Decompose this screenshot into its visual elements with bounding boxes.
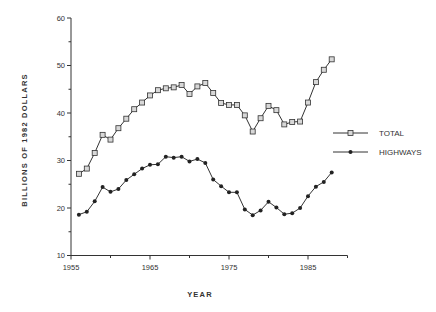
data-point-highways <box>259 208 263 212</box>
square-marker-icon <box>348 131 353 136</box>
x-tick-label: 1985 <box>300 263 317 272</box>
data-point-highways <box>322 180 326 184</box>
x-tick-label: 1955 <box>63 263 80 272</box>
x-axis-title: YEAR <box>187 290 213 299</box>
series-line-total <box>79 59 332 174</box>
data-point-total <box>116 126 121 131</box>
data-point-highways <box>306 194 310 198</box>
dot-marker-icon <box>349 150 353 154</box>
y-tick-label: 50 <box>57 61 65 70</box>
data-point-total <box>163 86 168 91</box>
data-point-highways <box>101 185 105 189</box>
legend-item-total: TOTAL <box>333 129 405 138</box>
legend-label-total: TOTAL <box>379 129 405 138</box>
data-point-total <box>76 171 81 176</box>
data-point-highways <box>85 210 89 214</box>
data-point-total <box>258 116 263 121</box>
data-point-total <box>148 93 153 98</box>
legend-label-highways: HIGHWAYS <box>379 148 422 157</box>
data-point-total <box>306 100 311 105</box>
data-point-highways <box>298 206 302 210</box>
data-point-highways <box>227 190 231 194</box>
data-point-highways <box>211 178 215 182</box>
data-point-highways <box>109 190 113 194</box>
data-point-highways <box>164 155 168 159</box>
data-point-total <box>92 150 97 155</box>
data-point-total <box>155 88 160 93</box>
data-point-highways <box>116 187 120 191</box>
y-tick-label: 20 <box>57 204 65 213</box>
data-point-highways <box>290 211 294 215</box>
data-point-total <box>298 119 303 124</box>
data-point-total <box>124 116 129 121</box>
series-line-highways <box>79 157 332 215</box>
data-point-total <box>108 137 113 142</box>
data-point-total <box>219 101 224 106</box>
data-point-total <box>274 108 279 113</box>
data-point-highways <box>282 212 286 216</box>
data-point-highways <box>251 213 255 217</box>
data-point-total <box>266 103 271 108</box>
data-point-highways <box>93 199 97 203</box>
data-point-total <box>203 81 208 86</box>
data-point-highways <box>156 162 160 166</box>
x-tick-label: 1975 <box>221 263 238 272</box>
data-point-total <box>140 100 145 105</box>
data-point-highways <box>243 207 247 211</box>
data-point-highways <box>314 185 318 189</box>
axes: 1020304050601955196519751985 <box>57 14 348 272</box>
data-point-highways <box>172 156 176 160</box>
data-point-highways <box>188 159 192 163</box>
data-point-highways <box>132 172 136 176</box>
y-tick-label: 30 <box>57 156 65 165</box>
y-tick-label: 10 <box>57 251 65 260</box>
data-point-total <box>187 92 192 97</box>
legend-item-highways: HIGHWAYS <box>333 148 422 157</box>
data-point-highways <box>180 155 184 159</box>
data-point-highways <box>203 161 207 165</box>
data-point-highways <box>330 170 334 174</box>
data-point-total <box>313 80 318 85</box>
data-point-total <box>179 82 184 87</box>
data-point-total <box>211 91 216 96</box>
data-point-total <box>290 120 295 125</box>
data-point-total <box>234 102 239 107</box>
legend: TOTAL HIGHWAYS <box>333 129 422 157</box>
y-tick-label: 60 <box>57 14 65 23</box>
y-axis-title: BILLIONS OF 1982 DOLLARS <box>20 73 29 206</box>
data-point-total <box>329 57 334 62</box>
data-point-highways <box>124 178 128 182</box>
data-point-highways <box>140 167 144 171</box>
data-point-highways <box>267 200 271 204</box>
data-point-total <box>84 166 89 171</box>
line-chart: 1020304050601955196519751985 BILLIONS OF… <box>0 0 436 312</box>
data-series <box>76 57 334 217</box>
data-point-total <box>171 85 176 90</box>
data-point-total <box>227 102 232 107</box>
x-tick-label: 1965 <box>142 263 159 272</box>
data-point-highways <box>274 206 278 210</box>
data-point-total <box>132 107 137 112</box>
data-point-total <box>282 122 287 127</box>
data-point-highways <box>195 157 199 161</box>
data-point-highways <box>219 184 223 188</box>
data-point-total <box>250 129 255 134</box>
data-point-total <box>242 113 247 118</box>
data-point-highways <box>148 163 152 167</box>
data-point-total <box>321 67 326 72</box>
data-point-total <box>195 84 200 89</box>
y-tick-label: 40 <box>57 109 65 118</box>
data-point-highways <box>77 213 81 217</box>
data-point-highways <box>235 190 239 194</box>
data-point-total <box>100 132 105 137</box>
